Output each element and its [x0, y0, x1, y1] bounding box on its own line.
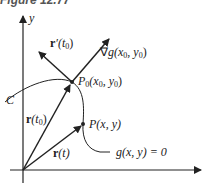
r-t0-label: r(t0) [26, 113, 47, 127]
tangent-vector [39, 52, 72, 82]
figure-12-77: Figure 12.77 y r′(t0) ∇g(x0, y0) [0, 0, 203, 189]
gradient-label: ∇g(x0, y0) [100, 46, 147, 60]
diagram-graphics [0, 0, 203, 189]
point-p0 [70, 80, 74, 84]
level-curve-label: g(x, y) = 0 [116, 146, 167, 158]
r-t-vector [23, 126, 81, 170]
point-p [81, 122, 85, 126]
point-p-label: P(x, y) [89, 118, 121, 130]
curve-c-label: C [6, 94, 14, 106]
y-axis-label: y [29, 12, 34, 24]
p0-label: P0(x0, y0) [78, 75, 122, 89]
tangent-label: r′(t0) [50, 37, 73, 51]
r-t-label: r(t) [53, 147, 70, 159]
